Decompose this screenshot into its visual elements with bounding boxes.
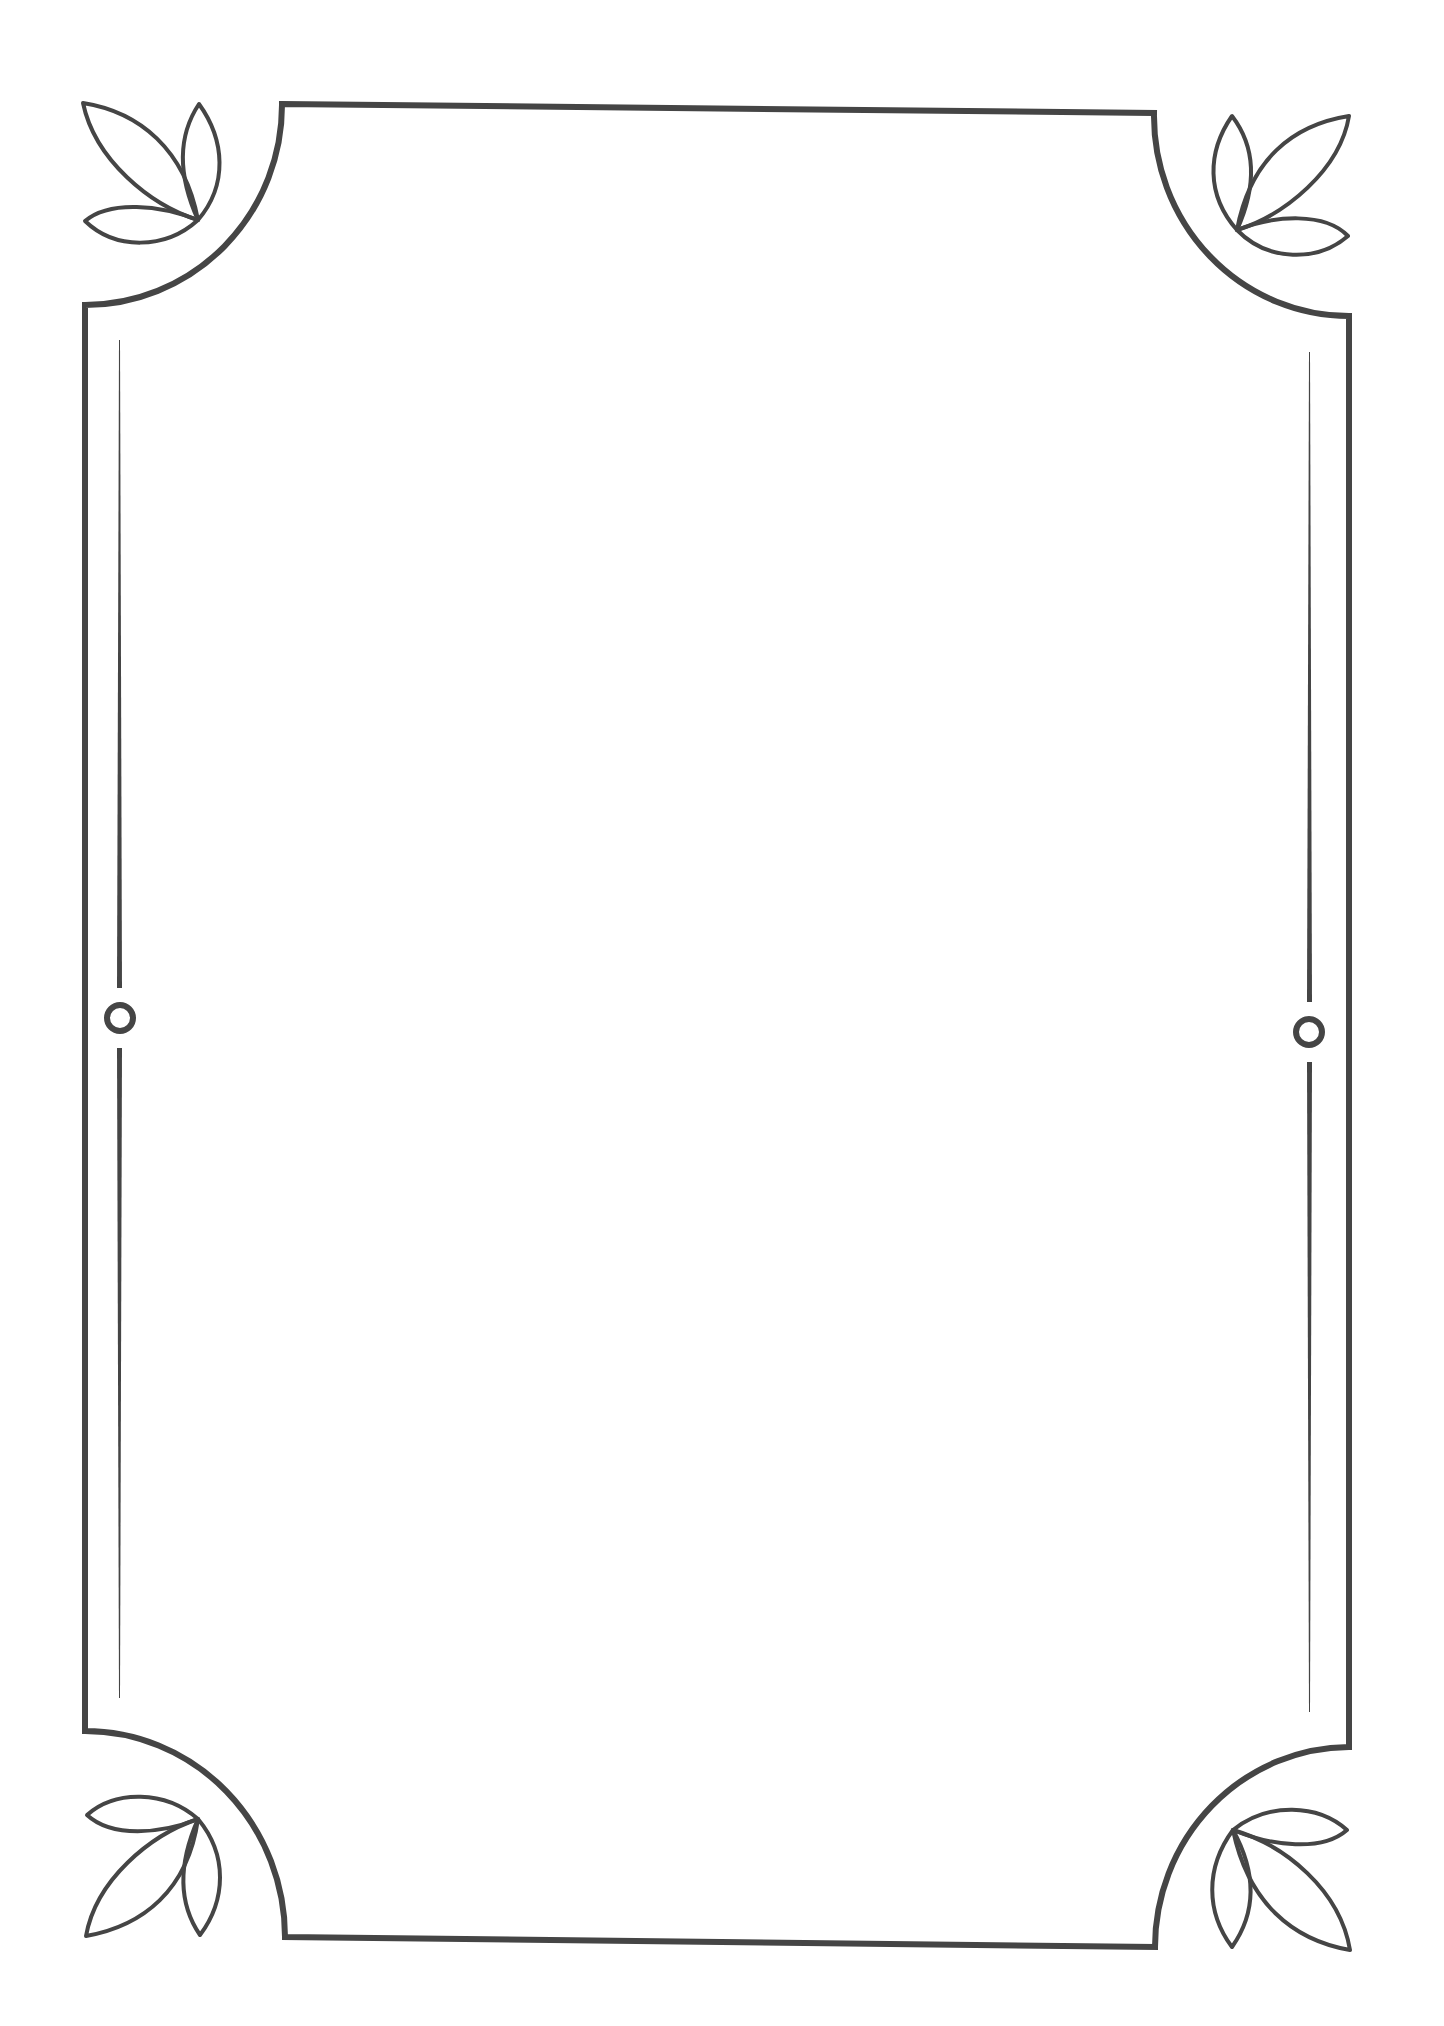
- leaf-sprig-bottom-left-icon: [86, 1797, 220, 1936]
- leaf-sprig-top-right-icon: [1213, 116, 1349, 255]
- left-inner-line-bottom: [117, 1048, 122, 1698]
- right-inner-line-bottom: [1307, 1062, 1312, 1712]
- leaf-sprig-bottom-right-icon: [1212, 1810, 1350, 1950]
- right-ring-icon: [1296, 1019, 1322, 1045]
- document-page: [0, 0, 1444, 2026]
- right-inner-line-top: [1307, 352, 1312, 1002]
- left-inner-line-top: [117, 340, 122, 988]
- leaf-sprig-top-left-icon: [83, 103, 220, 243]
- left-ring-icon: [107, 1005, 133, 1031]
- page-content-area: [140, 320, 1290, 1720]
